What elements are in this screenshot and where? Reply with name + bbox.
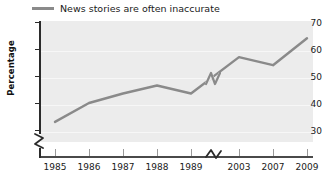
plot-area bbox=[41, 21, 313, 142]
gridline-50 bbox=[41, 78, 313, 79]
y-tick-label-70: 70 bbox=[300, 18, 322, 28]
legend-label-news-stories: News stories are often inaccurate bbox=[60, 3, 220, 14]
x-tick-mark-1988 bbox=[157, 149, 158, 156]
y-axis-line bbox=[39, 21, 41, 134]
chart-figure: News stories are often inaccurate Percen… bbox=[0, 0, 322, 181]
y-tick-label-30: 30 bbox=[300, 126, 322, 136]
x-tick-label-2003: 2003 bbox=[228, 162, 251, 172]
y-tick-mark-60 bbox=[35, 49, 40, 50]
x-tick-label-1985: 1985 bbox=[44, 162, 67, 172]
x-tick-mark-2009 bbox=[307, 149, 308, 156]
y-tick-mark-50 bbox=[35, 76, 40, 77]
y-tick-label-40: 40 bbox=[300, 99, 322, 109]
x-tick-mark-2007 bbox=[273, 149, 274, 156]
x-tick-mark-2003 bbox=[239, 149, 240, 156]
x-tick-mark-1989 bbox=[191, 149, 192, 156]
x-tick-mark-1985 bbox=[55, 149, 56, 156]
chart-legend: News stories are often inaccurate bbox=[32, 3, 220, 14]
x-tick-label-1987: 1987 bbox=[112, 162, 135, 172]
legend-line-swatch bbox=[32, 7, 54, 10]
x-tick-label-2009: 2009 bbox=[296, 162, 319, 172]
gridline-30 bbox=[41, 132, 313, 133]
gridline-40 bbox=[41, 105, 313, 106]
y-tick-mark-70 bbox=[35, 22, 40, 23]
x-tick-label-1989: 1989 bbox=[180, 162, 203, 172]
y-tick-label-50: 50 bbox=[300, 72, 322, 82]
gridline-60 bbox=[41, 51, 313, 52]
y-axis-title: Percentage bbox=[6, 39, 16, 97]
x-tick-mark-1986 bbox=[89, 149, 90, 156]
x-tick-mark-1987 bbox=[123, 149, 124, 156]
y-tick-label-60: 60 bbox=[300, 45, 322, 55]
x-tick-label-1988: 1988 bbox=[146, 162, 169, 172]
x-tick-label-2007: 2007 bbox=[262, 162, 285, 172]
y-tick-mark-30 bbox=[35, 130, 40, 131]
x-axis-line bbox=[41, 156, 313, 158]
y-tick-mark-40 bbox=[35, 103, 40, 104]
x-tick-label-1986: 1986 bbox=[78, 162, 101, 172]
